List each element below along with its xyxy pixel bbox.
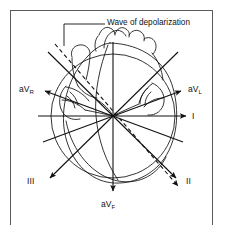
label-lead-ii: II bbox=[186, 176, 191, 186]
label-avr-sub: R bbox=[30, 89, 34, 95]
axis-lead-iii bbox=[50, 52, 178, 178]
label-avl: aVL bbox=[188, 84, 202, 94]
label-lead-iii: III bbox=[27, 176, 34, 186]
lead-axes bbox=[38, 42, 186, 191]
annotation-title: Wave of depolarization bbox=[107, 18, 190, 27]
label-avf: aVF bbox=[101, 199, 115, 209]
label-avl-sub: L bbox=[199, 89, 202, 95]
heart-illustration bbox=[60, 27, 177, 183]
label-avr-base: aV bbox=[19, 84, 30, 94]
label-lead-i: I bbox=[192, 111, 194, 121]
label-avf-sub: F bbox=[112, 204, 116, 210]
label-avl-base: aV bbox=[188, 84, 199, 94]
label-avf-base: aV bbox=[101, 199, 112, 209]
label-avr: aVR bbox=[19, 84, 34, 94]
axis-lead-ii bbox=[48, 52, 176, 178]
figure-canvas: Wave of depolarization aVR aVL aVF I II … bbox=[0, 0, 227, 225]
